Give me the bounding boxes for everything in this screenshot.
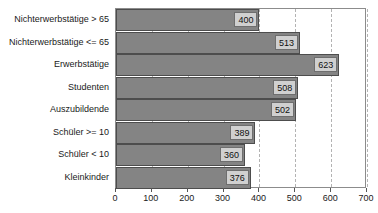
bar-value-label: 400 — [234, 12, 257, 27]
bar-value-label: 376 — [226, 170, 249, 185]
bar[interactable] — [116, 77, 298, 99]
x-tick-label: 400 — [251, 193, 266, 203]
x-tick-label: 600 — [323, 193, 338, 203]
bar-value-label: 389 — [230, 125, 253, 140]
x-tick-mark — [366, 188, 367, 192]
x-tick-mark — [187, 188, 188, 192]
bar-value-label: 502 — [271, 102, 294, 117]
bar-chart: Nichterwerbstätige > 65Nichterwerbstätig… — [0, 0, 378, 213]
category-label: Schüler < 10 — [58, 143, 109, 165]
bar-row: 502 — [116, 99, 367, 121]
x-tick-label: 100 — [143, 193, 158, 203]
bars-layer: 400513623508502389360376 — [116, 9, 365, 187]
x-tick-label: 200 — [179, 193, 194, 203]
x-tick-label: 300 — [215, 193, 230, 203]
bar-row: 400 — [116, 9, 367, 31]
x-tick-mark — [330, 188, 331, 192]
bar-value-label: 360 — [220, 147, 243, 162]
x-tick-mark — [151, 188, 152, 192]
bar-row: 376 — [116, 167, 367, 189]
category-label: Auszubildende — [50, 98, 109, 120]
x-tick-label: 500 — [287, 193, 302, 203]
category-label: Nichterwerbstätige <= 65 — [9, 31, 109, 53]
category-label: Schüler >= 10 — [53, 121, 109, 143]
category-label: Kleinkinder — [64, 166, 109, 188]
x-tick-mark — [258, 188, 259, 192]
bar-row: 623 — [116, 54, 367, 76]
bar[interactable] — [116, 54, 339, 76]
bar-row: 508 — [116, 77, 367, 99]
bar-value-label: 623 — [314, 57, 337, 72]
bar[interactable] — [116, 99, 296, 121]
category-label: Erwerbstätige — [54, 53, 109, 75]
x-tick-label: 0 — [112, 193, 117, 203]
bar-row: 360 — [116, 144, 367, 166]
bar-value-label: 513 — [275, 35, 298, 50]
category-label: Studenten — [68, 76, 109, 98]
x-tick-mark — [294, 188, 295, 192]
x-tick-mark — [115, 188, 116, 192]
gridline-700 — [367, 9, 368, 187]
category-axis: Nichterwerbstätige > 65Nichterwerbstätig… — [0, 8, 113, 188]
x-axis: 0100200300400500600700 — [115, 188, 366, 213]
bar-value-label: 508 — [273, 80, 296, 95]
plot-area: 400513623508502389360376 — [115, 8, 366, 188]
bar[interactable] — [116, 32, 300, 54]
bar-row: 513 — [116, 32, 367, 54]
bar-row: 389 — [116, 122, 367, 144]
x-tick-mark — [223, 188, 224, 192]
x-tick-label: 700 — [358, 193, 373, 203]
category-label: Nichterwerbstätige > 65 — [14, 8, 109, 30]
